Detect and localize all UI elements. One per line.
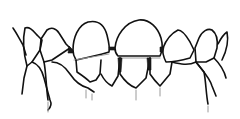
teeth-illustration <box>0 0 240 119</box>
lower-teeth <box>22 58 226 112</box>
teeth-drawing <box>0 0 240 119</box>
